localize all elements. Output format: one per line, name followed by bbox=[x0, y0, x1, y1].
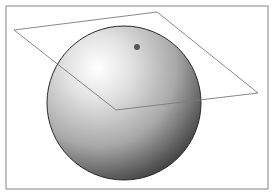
sphere-tangent-plane-diagram bbox=[0, 0, 274, 194]
tangent-point bbox=[134, 44, 140, 50]
